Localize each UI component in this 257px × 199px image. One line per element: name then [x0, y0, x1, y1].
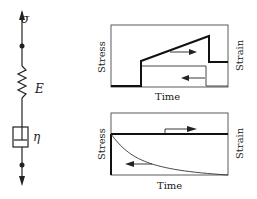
arrow-right-icon [189, 49, 197, 55]
stress-axis-label: Stress [96, 41, 107, 73]
strain-axis-label: Strain [234, 39, 245, 71]
relaxation-chart [111, 113, 228, 175]
strain-axis-label: Strain [234, 127, 245, 159]
down-arrow-icon [19, 176, 25, 186]
arrow-right-icon [187, 126, 197, 132]
time-axis-label: Time [157, 180, 182, 191]
strain-curve [111, 36, 228, 86]
stress-decay-curve [111, 134, 228, 175]
creep-chart [111, 25, 228, 87]
stress-curve [111, 66, 228, 86]
spring-icon [18, 66, 26, 98]
arrow-left-icon [181, 75, 189, 81]
spring-label: E [34, 82, 44, 96]
bottom-node-dot [20, 163, 25, 168]
arrow-left-icon [125, 161, 134, 167]
chart-frame [111, 25, 228, 87]
maxwell-model-diagram: σ E η Stress Strain Time Stress Strain T… [0, 0, 257, 199]
chart-frame [111, 113, 228, 175]
stress-axis-label: Stress [96, 128, 107, 160]
maxwell-model [13, 10, 28, 186]
sigma-label: σ [21, 12, 30, 26]
dashpot-cylinder-icon [13, 127, 28, 147]
dashpot-label: η [33, 130, 41, 144]
time-axis-label: Time [155, 91, 180, 102]
